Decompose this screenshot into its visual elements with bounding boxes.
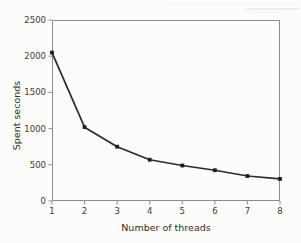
x-tick-label: 8 <box>277 206 282 216</box>
x-tick-label: 3 <box>114 206 119 216</box>
x-axis-title: Number of threads <box>52 222 280 233</box>
y-tick-label: 2000 <box>8 51 46 61</box>
x-tick-label: 5 <box>180 206 185 216</box>
x-tick-label: 6 <box>212 206 217 216</box>
x-tick-label: 4 <box>147 206 152 216</box>
figure-canvas: 05001000150020002500 12345678 Spent seco… <box>0 0 301 243</box>
data-point-marker <box>246 174 250 178</box>
y-axis-tick-marks <box>49 20 53 201</box>
x-axis-tick-marks <box>52 201 280 205</box>
y-tick-label: 0 <box>8 196 46 206</box>
data-point-marker <box>180 164 184 168</box>
data-point-marker <box>213 168 217 172</box>
data-line-series <box>52 53 280 179</box>
data-point-marker <box>83 125 87 129</box>
data-point-markers <box>50 51 282 181</box>
y-tick-label: 2500 <box>8 15 46 25</box>
x-tick-label: 2 <box>82 206 87 216</box>
x-tick-label: 1 <box>49 206 54 216</box>
data-point-marker <box>278 177 282 181</box>
y-axis-title: Spent seconds <box>11 66 22 166</box>
data-point-marker <box>50 51 54 55</box>
x-tick-label: 7 <box>245 206 250 216</box>
data-point-marker <box>115 145 119 149</box>
data-point-marker <box>148 158 152 162</box>
